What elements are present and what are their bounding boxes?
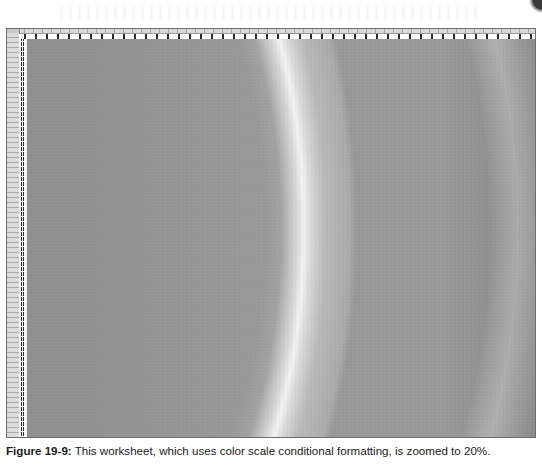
color-scale-heatmap-cells[interactable]	[27, 39, 535, 437]
row-1-x-values[interactable]	[19, 34, 535, 39]
figure-caption-text: This worksheet, which uses color scale c…	[72, 444, 491, 457]
figure-caption: Figure 19-9: This worksheet, which uses …	[6, 444, 542, 457]
worksheet[interactable]	[6, 28, 536, 438]
figure-caption-label: Figure 19-9:	[6, 444, 72, 457]
select-all-corner[interactable]	[7, 29, 20, 33]
page-corner-shadow	[524, 0, 542, 16]
column-a-y-values[interactable]	[19, 39, 27, 437]
page-bleed-through	[60, 6, 480, 20]
cell-grid-texture	[27, 39, 535, 437]
